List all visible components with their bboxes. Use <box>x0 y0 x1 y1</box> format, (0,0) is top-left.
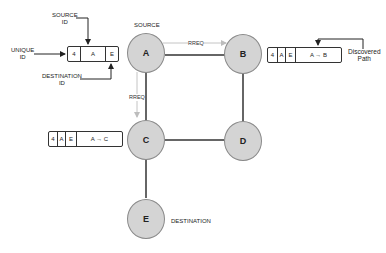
node-e: E <box>127 199 165 239</box>
packet-unique-id-cell: 4 <box>49 132 58 146</box>
packet-source-cell: A <box>58 132 66 146</box>
packet-path-cell: A → C <box>77 132 122 146</box>
node-a: A <box>127 33 165 73</box>
rreq-label-a-b: RREQ <box>188 40 204 47</box>
node-d: D <box>224 121 262 161</box>
packet-source-cell: A <box>81 47 106 61</box>
packet-source-cell: A <box>278 48 286 62</box>
packet-path-cell: A → B <box>296 48 341 62</box>
aodv-route-discovery-diagram <box>0 0 386 253</box>
packet-at-c: 4 A E A → C <box>48 131 123 147</box>
node-c: C <box>127 120 165 160</box>
rreq-label-a-c: RREQ <box>129 94 145 101</box>
source-label: SOURCE <box>134 22 160 29</box>
destination-id-pointer <box>80 64 111 79</box>
packet-destination-cell: E <box>106 47 118 61</box>
packet-unique-id-cell: 4 <box>68 47 81 61</box>
packet-header-legend: 4 A E <box>67 46 119 62</box>
source-id-label: SOURCE ID <box>52 12 78 26</box>
packet-unique-id-cell: 4 <box>268 48 278 62</box>
node-b: B <box>224 34 262 74</box>
discovered-path-label: Discovered Path <box>348 48 381 62</box>
destination-label: DESTINATION <box>171 218 211 225</box>
source-id-pointer <box>76 18 88 44</box>
unique-id-label: UNIQUE ID <box>11 47 34 61</box>
destination-id-label: DESTINATION ID <box>42 73 82 87</box>
packet-destination-cell: E <box>66 132 77 146</box>
packet-destination-cell: E <box>286 48 296 62</box>
node-e-label: E <box>143 214 149 224</box>
packet-at-b: 4 A E A → B <box>267 47 342 63</box>
node-c-label: C <box>143 135 150 145</box>
node-a-label: A <box>143 48 150 58</box>
node-d-label: D <box>240 136 247 146</box>
node-b-label: B <box>240 49 247 59</box>
